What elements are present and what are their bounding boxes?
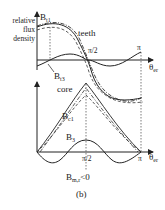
top-tick-half-pi: π/2	[88, 47, 98, 55]
y-axis-label-line2: flux	[2, 26, 35, 34]
top-tick-pi: π	[137, 44, 141, 52]
figure-caption: (b)	[76, 190, 87, 199]
label-b-3: B3	[66, 133, 75, 145]
bottom-x-axis-label: θer	[149, 153, 158, 165]
y-axis-label-line1: relative	[2, 17, 35, 25]
annotation-b-mr: Bm,r<0	[66, 173, 90, 185]
label-b-c1: Bc1	[62, 112, 74, 124]
label-b-t1: Bt1	[40, 13, 51, 25]
label-b-t3: Bt3	[54, 72, 65, 84]
bottom-tick-half-pi: π/2	[82, 155, 92, 163]
flux-density-figure: relative flux density Bt1 teeth π/2 π θe…	[0, 0, 165, 210]
label-teeth: teeth	[78, 29, 96, 38]
label-core: core	[57, 85, 73, 94]
bottom-tick-pi: π	[138, 155, 142, 163]
y-axis-label-line3: density	[2, 35, 35, 43]
top-x-axis-label: θer	[149, 63, 158, 75]
